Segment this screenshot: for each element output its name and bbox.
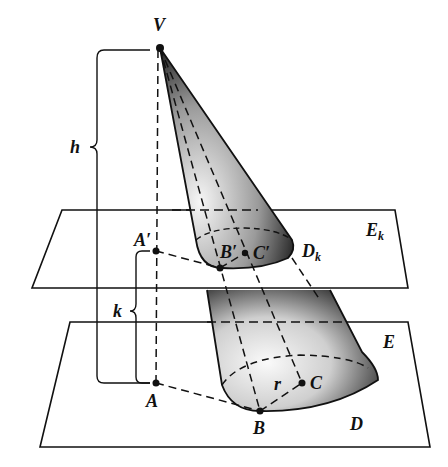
label-k: k [113,301,122,321]
label-b: B [252,418,265,438]
label-r: r [274,374,282,394]
label-d: D [349,414,363,434]
point-a-prime [153,248,160,255]
point-c-prime [242,250,248,256]
point-v [156,44,164,52]
cone-lower-body [207,290,378,411]
label-e: E [382,332,395,352]
cone-cross-section-diagram: V h k Ek E A′ B′ C′ Dk A B C D r [0,0,448,467]
label-a: A [145,391,158,411]
label-h: h [70,137,80,157]
point-a [153,380,160,387]
label-c: C [310,373,323,393]
label-a-prime: A′ [133,230,151,250]
point-b [257,408,264,415]
label-b-prime: B′ [219,242,237,262]
label-c-prime: C′ [253,243,270,263]
point-c [299,380,306,387]
point-b-prime [217,265,224,272]
label-v: V [153,15,167,35]
